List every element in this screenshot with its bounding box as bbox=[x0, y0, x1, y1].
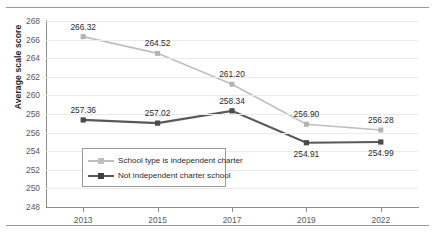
series-point-marker[interactable] bbox=[81, 117, 86, 122]
x-axis-tick-label: 2022 bbox=[371, 215, 390, 225]
data-point-label: 254.99 bbox=[368, 148, 394, 158]
y-axis-tick-label: 256 bbox=[26, 128, 40, 138]
line-chart-figure: Average scale score 26826626426226025825… bbox=[0, 0, 435, 238]
data-point-label: 261.20 bbox=[219, 69, 245, 79]
grid-line bbox=[46, 58, 418, 59]
series-point-marker[interactable] bbox=[378, 139, 383, 144]
data-point-label: 256.90 bbox=[294, 109, 320, 119]
series-point-marker[interactable] bbox=[230, 82, 235, 87]
y-axis-tick-label: 248 bbox=[26, 202, 40, 212]
y-axis-tick-label: 262 bbox=[26, 72, 40, 82]
grid-line bbox=[46, 133, 418, 134]
data-point-label: 257.02 bbox=[145, 108, 171, 118]
top-divider-rule bbox=[6, 7, 429, 8]
grid-line bbox=[46, 188, 418, 189]
y-axis-tick-label: 260 bbox=[26, 90, 40, 100]
legend-label-independent-charter: School type is independent charter bbox=[114, 156, 243, 165]
grid-line bbox=[46, 21, 418, 22]
x-axis-tick-label: 2019 bbox=[297, 215, 316, 225]
legend-marker-icon-light bbox=[88, 156, 114, 165]
bottom-divider-rule bbox=[6, 225, 429, 226]
series-point-marker[interactable] bbox=[155, 121, 160, 126]
series-point-marker[interactable] bbox=[304, 122, 309, 127]
y-axis-tick-label: 268 bbox=[26, 16, 40, 26]
x-axis-tick-mark bbox=[232, 207, 233, 212]
y-axis-tick-label: 254 bbox=[26, 146, 40, 156]
legend-label-not-independent-charter: Not independent charter school bbox=[114, 171, 231, 180]
x-axis-tick-label: 2015 bbox=[148, 215, 167, 225]
y-axis-tick-label: 250 bbox=[26, 183, 40, 193]
legend-marker-icon-dark bbox=[88, 171, 114, 180]
data-point-label: 258.34 bbox=[219, 96, 245, 106]
legend-entry-independent-charter[interactable]: School type is independent charter bbox=[88, 153, 220, 168]
x-axis-tick-mark bbox=[381, 207, 382, 212]
series-point-marker[interactable] bbox=[155, 51, 160, 56]
series-point-marker[interactable] bbox=[81, 34, 86, 39]
grid-line bbox=[46, 114, 418, 115]
y-axis-title: Average scale score bbox=[13, 0, 23, 147]
x-axis-tick-mark bbox=[158, 207, 159, 212]
x-axis-tick-label: 2013 bbox=[74, 215, 93, 225]
y-axis-tick-label: 252 bbox=[26, 165, 40, 175]
grid-line bbox=[46, 40, 418, 41]
x-axis-tick-mark bbox=[83, 207, 84, 212]
data-point-label: 266.32 bbox=[70, 22, 96, 32]
x-axis-tick-mark bbox=[306, 207, 307, 212]
data-point-label: 264.52 bbox=[145, 38, 171, 48]
y-axis-tick-label: 258 bbox=[26, 109, 40, 119]
chart-legend: School type is independent charter Not i… bbox=[82, 148, 226, 187]
legend-entry-not-independent-charter[interactable]: Not independent charter school bbox=[88, 168, 220, 183]
data-point-label: 254.91 bbox=[294, 149, 320, 159]
data-point-label: 256.28 bbox=[368, 115, 394, 125]
x-axis-tick-label: 2017 bbox=[223, 215, 242, 225]
series-point-marker[interactable] bbox=[229, 108, 234, 113]
series-point-marker[interactable] bbox=[304, 140, 309, 145]
data-point-label: 257.36 bbox=[70, 105, 96, 115]
y-axis-tick-label: 264 bbox=[26, 53, 40, 63]
y-axis-tick-label: 266 bbox=[26, 35, 40, 45]
